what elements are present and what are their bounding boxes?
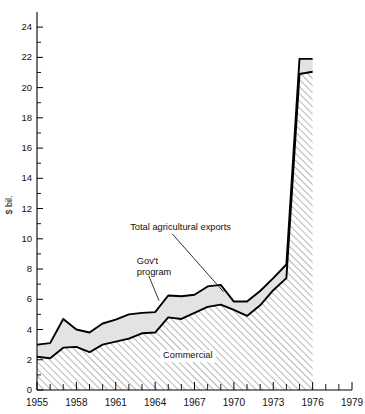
y-axis-title: $ bil. xyxy=(4,195,14,214)
y-tick-label: 20 xyxy=(21,82,32,93)
govt-program-label-line2: program xyxy=(137,267,172,277)
total-exports-label-leader xyxy=(172,234,223,292)
y-tick-label: 24 xyxy=(21,21,32,32)
agricultural-exports-chart: 024681012141618202224 195519581961196419… xyxy=(0,0,365,414)
x-tick-label: 1973 xyxy=(262,397,285,408)
govt-program-label-leader xyxy=(149,276,159,301)
y-tick-label: 10 xyxy=(21,233,32,244)
y-tick-label: 8 xyxy=(27,263,32,274)
y-tick-label: 6 xyxy=(27,293,32,304)
chart-svg: 024681012141618202224 195519581961196419… xyxy=(0,0,365,414)
x-tick-label: 1958 xyxy=(65,397,88,408)
govt-program-label: Gov't xyxy=(137,256,159,266)
y-tick-label: 12 xyxy=(21,203,32,214)
x-tick-label: 1976 xyxy=(302,397,325,408)
x-tick-label: 1979 xyxy=(341,397,364,408)
x-tick-label: 1964 xyxy=(144,397,167,408)
commercial-label: Commercial xyxy=(163,350,213,360)
total-exports-label: Total agricultural exports xyxy=(130,222,231,232)
x-tick-label: 1967 xyxy=(183,397,206,408)
y-tick-label: 22 xyxy=(21,51,32,62)
y-tick-label: 16 xyxy=(21,142,32,153)
y-tick-label: 2 xyxy=(27,354,32,365)
x-axis: 195519581961196419671970197319761979 xyxy=(26,382,364,408)
x-tick-label: 1961 xyxy=(105,397,128,408)
y-tick-label: 18 xyxy=(21,112,32,123)
y-tick-label: 0 xyxy=(27,384,32,395)
y-tick-label: 14 xyxy=(21,172,32,183)
axis-title-group: $ bil. xyxy=(4,195,14,214)
x-tick-label: 1955 xyxy=(26,397,49,408)
y-axis: 024681012141618202224 xyxy=(21,12,43,395)
y-tick-label: 4 xyxy=(27,324,32,335)
x-tick-label: 1970 xyxy=(223,397,246,408)
